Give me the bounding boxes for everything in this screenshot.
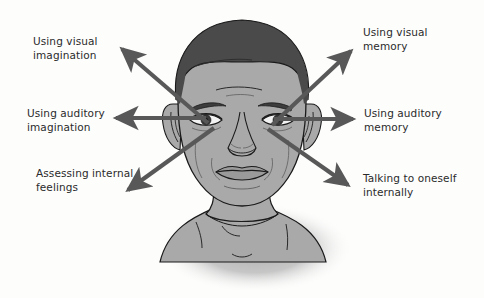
label-using-visual-imagination: Using visual imagination xyxy=(33,35,98,62)
label-assessing-internal-feelings: Assessing internal feelings xyxy=(36,167,133,194)
label-using-visual-memory: Using visual memory xyxy=(363,26,428,53)
label-using-auditory-imagination: Using auditory imagination xyxy=(27,107,105,134)
eye-accessing-cues-diagram: Using visual imagination Using auditory … xyxy=(0,0,484,298)
label-using-auditory-memory: Using auditory memory xyxy=(364,107,442,134)
label-talking-to-oneself-internally: Talking to oneself internally xyxy=(363,172,456,199)
